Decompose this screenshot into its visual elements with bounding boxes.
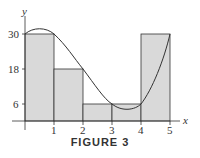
y-axis-label: y xyxy=(21,5,27,17)
riemann-sum-plot: 1 2 3 4 5 30 18 6 x y xyxy=(0,0,200,158)
y-tick-label-6: 6 xyxy=(13,98,19,110)
x-tick-label-4: 4 xyxy=(138,124,144,136)
y-ticks xyxy=(22,34,25,104)
x-tick-label-2: 2 xyxy=(80,124,86,136)
x-tick-label-1: 1 xyxy=(51,124,57,136)
rectangles xyxy=(25,34,170,121)
y-tick-label-18: 18 xyxy=(8,63,20,75)
rectangle-2 xyxy=(54,69,83,121)
figure: 1 2 3 4 5 30 18 6 x y FIGURE 3 xyxy=(0,0,200,158)
figure-caption: FIGURE 3 xyxy=(0,136,200,148)
x-axis-label: x xyxy=(182,114,188,126)
rectangle-3 xyxy=(83,104,112,121)
x-tick-label-5: 5 xyxy=(167,124,173,136)
x-tick-label-3: 3 xyxy=(109,124,115,136)
rectangle-1 xyxy=(25,34,54,121)
y-tick-label-30: 30 xyxy=(8,28,20,40)
